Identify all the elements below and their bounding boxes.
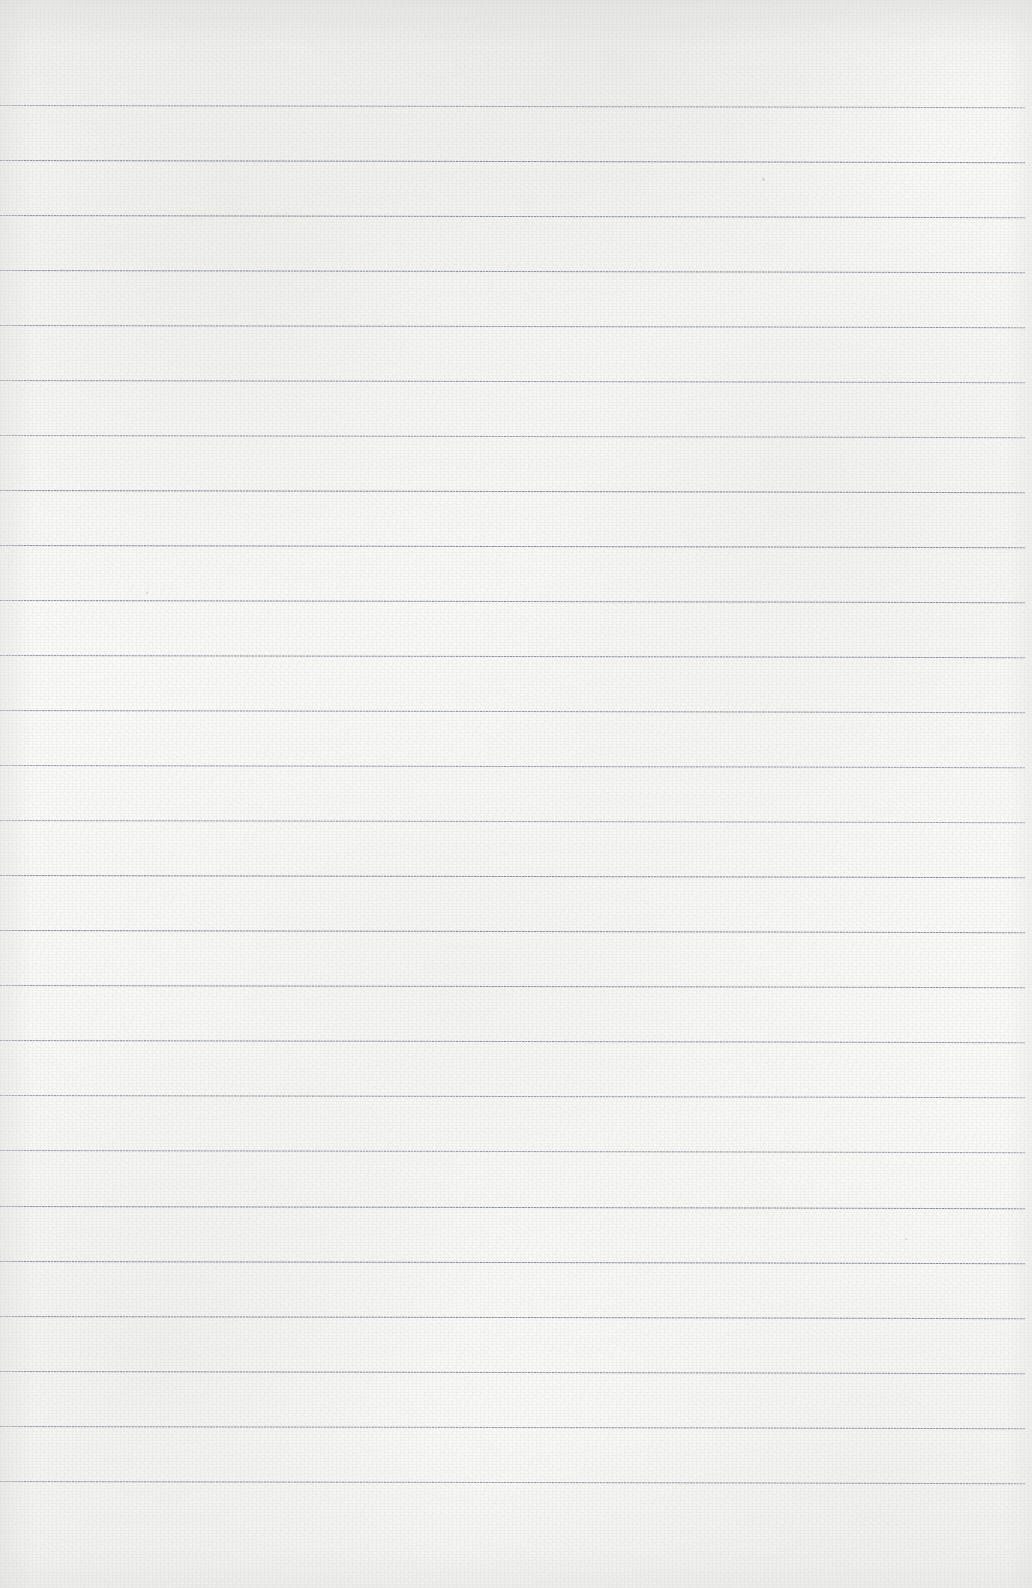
ruled-line bbox=[0, 1370, 1025, 1374]
ruled-line bbox=[0, 324, 1025, 328]
ruled-line bbox=[0, 1425, 1025, 1429]
ruled-line bbox=[0, 709, 1025, 713]
ruled-line bbox=[0, 489, 1025, 493]
ruled-line bbox=[0, 1149, 1025, 1153]
ruled-line bbox=[0, 214, 1025, 218]
scan-speck bbox=[905, 1238, 907, 1240]
ruled-line bbox=[0, 1315, 1025, 1319]
ruled-line bbox=[0, 379, 1025, 383]
scan-speck bbox=[762, 178, 765, 181]
ruled-line bbox=[0, 599, 1025, 603]
ruled-line bbox=[0, 159, 1025, 163]
scanned-page bbox=[0, 0, 1032, 1588]
ruled-lines-layer bbox=[0, 0, 1032, 1588]
ruled-line bbox=[0, 1094, 1025, 1098]
ruled-line bbox=[0, 1039, 1025, 1043]
ruled-line bbox=[0, 819, 1025, 823]
ruled-line bbox=[0, 654, 1025, 658]
ruled-line bbox=[0, 929, 1025, 933]
ruled-line bbox=[0, 104, 1025, 108]
ruled-line bbox=[0, 1205, 1025, 1209]
scan-speck bbox=[146, 592, 148, 594]
ruled-line bbox=[0, 544, 1025, 548]
ruled-line bbox=[0, 434, 1025, 438]
ruled-line bbox=[0, 874, 1025, 878]
ruled-line bbox=[0, 764, 1025, 768]
ruled-line bbox=[0, 984, 1025, 988]
ruled-line bbox=[0, 269, 1025, 273]
ruled-line bbox=[0, 1480, 1025, 1484]
ruled-line bbox=[0, 1260, 1025, 1264]
